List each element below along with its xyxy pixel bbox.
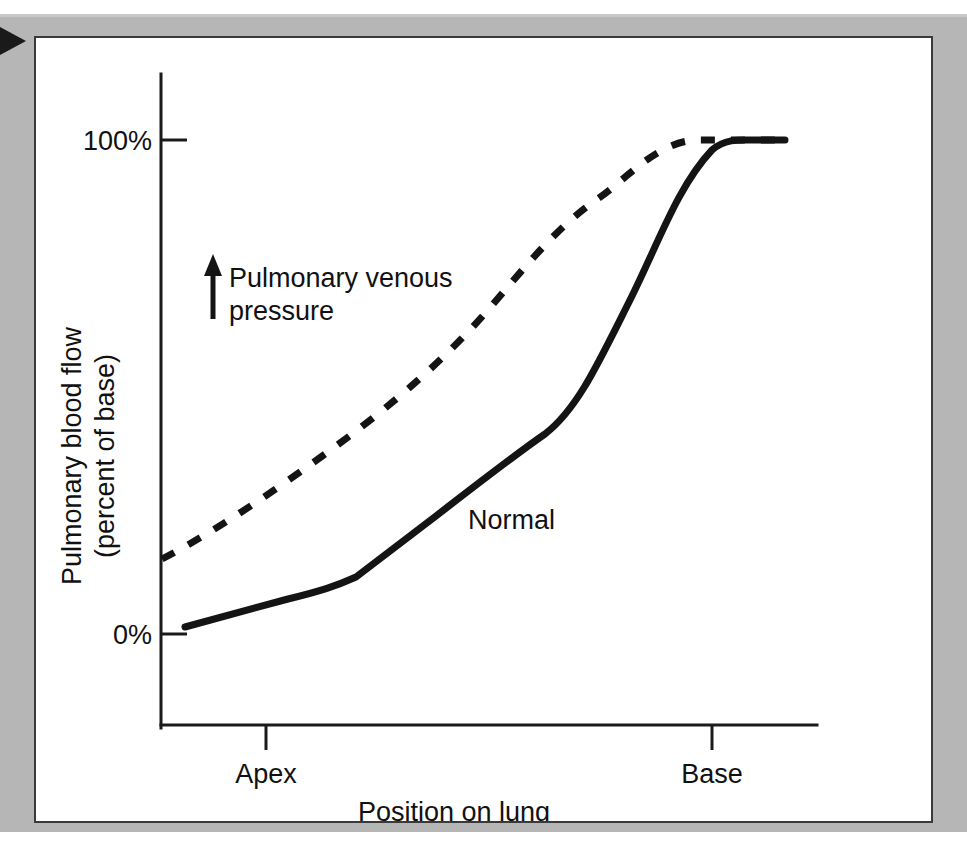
x-tick-label-base: Base (681, 759, 743, 789)
series-dashed-elevated-pressure (162, 140, 785, 559)
annotation-line1: Pulmonary venous (229, 263, 453, 293)
figure-panel: 100% 0% Apex Base Position on lung Pulmo… (34, 36, 933, 823)
up-arrow-head-icon (204, 254, 222, 276)
x-axis-title: Position on lung (358, 797, 550, 821)
line-chart-plot: 100% 0% Apex Base Position on lung Pulmo… (36, 38, 931, 821)
figure-page: 100% 0% Apex Base Position on lung Pulmo… (0, 0, 967, 846)
mat-top-highlight (0, 14, 967, 17)
annotation-line2: pressure (229, 296, 334, 326)
x-tick-label-apex: Apex (235, 759, 297, 789)
series-solid-normal (185, 140, 785, 627)
pointer-triangle-icon (0, 27, 26, 55)
y-tick-label-0: 0% (113, 620, 152, 650)
y-tick-label-100: 100% (83, 126, 152, 156)
y-axis-title-line1: Pulmonary blood flow (57, 326, 87, 585)
y-axis-title-line2: (percent of base) (90, 354, 120, 558)
series-label-normal: Normal (468, 505, 555, 535)
